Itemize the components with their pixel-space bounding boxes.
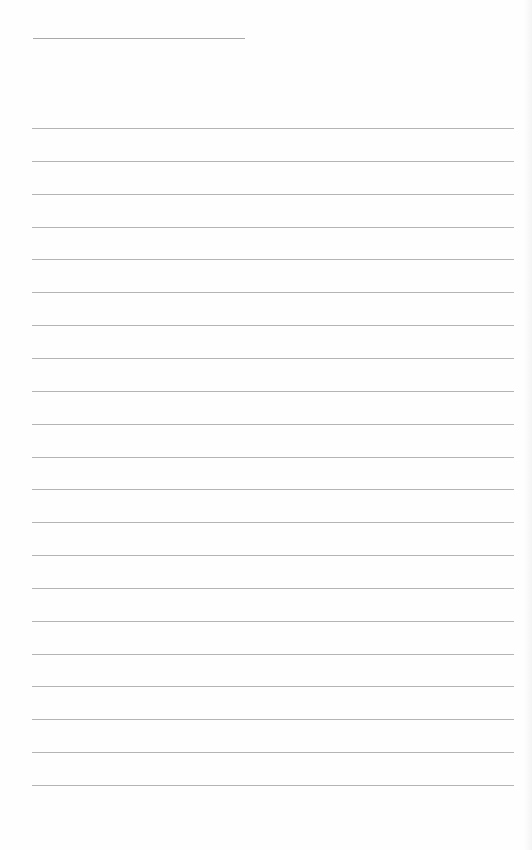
ruled-line	[32, 391, 514, 392]
ruled-line	[32, 654, 514, 655]
ruled-line	[32, 259, 514, 260]
ruled-line	[32, 457, 514, 458]
ruled-line	[32, 424, 514, 425]
ruled-line	[32, 522, 514, 523]
ruled-line	[32, 161, 514, 162]
ruled-line	[32, 719, 514, 720]
ruled-line	[32, 785, 514, 786]
ruled-line	[32, 194, 514, 195]
ruled-line	[32, 752, 514, 753]
ruled-line	[32, 555, 514, 556]
ruled-lines	[0, 0, 532, 850]
ruled-line	[32, 325, 514, 326]
ruled-line	[32, 588, 514, 589]
ruled-line	[32, 292, 514, 293]
ruled-line	[32, 489, 514, 490]
ruled-line	[32, 686, 514, 687]
page-edge-shadow	[524, 0, 532, 850]
ruled-line	[32, 128, 514, 129]
ruled-line	[32, 227, 514, 228]
lined-paper-page	[0, 0, 532, 850]
ruled-line	[32, 621, 514, 622]
ruled-line	[32, 358, 514, 359]
